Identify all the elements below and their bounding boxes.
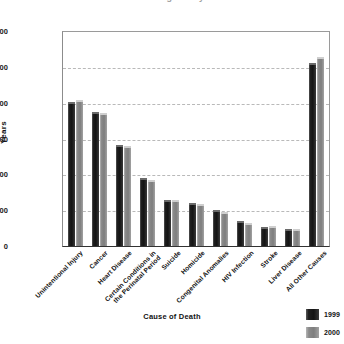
bar-1999 (68, 102, 75, 246)
bar-1999 (213, 210, 220, 246)
bar-2000 (76, 100, 83, 246)
bar-2000 (148, 180, 155, 246)
bar-top-bevel (100, 113, 107, 115)
bar-group (257, 32, 281, 246)
bar-1999 (261, 227, 268, 246)
bar-top-bevel (285, 229, 292, 231)
y-tick-label: 1,500,000 (0, 134, 8, 143)
bar-top-bevel (237, 221, 244, 223)
bar-group (63, 32, 87, 246)
bar-1999 (116, 145, 123, 246)
y-tick-label: 500,000 (0, 206, 8, 215)
bar-top-bevel (68, 102, 75, 104)
bar-2000 (269, 226, 276, 246)
bar-top-bevel (140, 178, 147, 180)
bar-1999 (237, 221, 244, 246)
bar-2000 (317, 57, 324, 246)
legend-item-1999: 1999 (306, 309, 340, 320)
bar-1999 (309, 63, 316, 246)
bar-chart: Years 3,000,0002,500,0002,000,0001,500,0… (0, 0, 344, 344)
chart-legend: 1999 2000 (306, 309, 340, 338)
bar-top-bevel (164, 200, 171, 202)
y-tick-label: 2,000,000 (0, 98, 8, 107)
bar-top-bevel (172, 200, 179, 202)
legend-swatch-2000 (306, 327, 319, 338)
legend-label-2000: 2000 (324, 329, 340, 336)
bar-top-bevel (309, 63, 316, 65)
bar-top-bevel (245, 223, 252, 225)
bar-top-bevel (269, 226, 276, 228)
bar-top-bevel (76, 100, 83, 102)
bar-group (184, 32, 208, 246)
bar-2000 (245, 223, 252, 246)
bar-group (232, 32, 256, 246)
bar-group (87, 32, 111, 246)
bar-top-bevel (317, 57, 324, 59)
bar-top-bevel (116, 145, 123, 147)
bar-top-bevel (124, 146, 131, 148)
bar-group (136, 32, 160, 246)
bar-2000 (197, 204, 204, 246)
bar-1999 (164, 200, 171, 246)
y-tick-label: 2,500,000 (0, 62, 8, 71)
legend-item-2000: 2000 (306, 327, 340, 338)
bar-group (208, 32, 232, 246)
bar-top-bevel (293, 229, 300, 231)
bar-group (305, 32, 329, 246)
bar-2000 (221, 212, 228, 246)
y-tick-label: 0 (0, 242, 8, 251)
bar-top-bevel (189, 203, 196, 205)
bar-top-bevel (261, 227, 268, 229)
bar-group (281, 32, 305, 246)
bar-1999 (140, 178, 147, 246)
bar-group (160, 32, 184, 246)
legend-label-1999: 1999 (324, 311, 340, 318)
bar-top-bevel (221, 212, 228, 214)
bar-2000 (172, 200, 179, 246)
bar-top-bevel (148, 180, 155, 182)
bar-1999 (285, 229, 292, 246)
bar-top-bevel (197, 204, 204, 206)
bar-1999 (92, 112, 99, 246)
bar-2000 (100, 113, 107, 246)
bar-1999 (189, 203, 196, 246)
y-tick-label: 3,000,000 (0, 27, 8, 36)
bar-top-bevel (213, 210, 220, 212)
y-tick-label: 1,000,000 (0, 170, 8, 179)
bar-2000 (293, 229, 300, 246)
bar-group (111, 32, 135, 246)
bar-2000 (124, 146, 131, 246)
bar-groups (63, 32, 329, 246)
x-axis-title: Cause of Death (0, 312, 344, 321)
legend-swatch-1999 (306, 309, 319, 320)
bar-top-bevel (92, 112, 99, 114)
